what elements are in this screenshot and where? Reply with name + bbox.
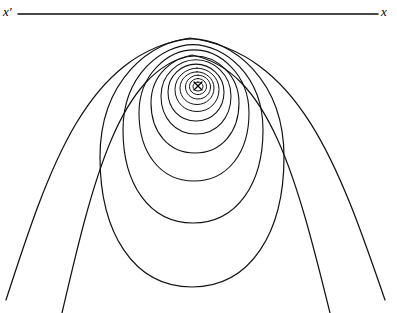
figure-canvas: x' x [0,0,397,313]
center-cross-marker [194,82,202,90]
axis-label-x-prime: x' [3,5,12,18]
contour-curve [62,55,330,313]
contour-curve-group [6,38,385,313]
contour-plot-svg [0,0,397,313]
contour-curve [168,64,224,121]
contour-curve [6,38,385,300]
contour-curve [161,60,231,134]
contour-curve [139,50,249,181]
axis-label-x: x [381,5,387,18]
